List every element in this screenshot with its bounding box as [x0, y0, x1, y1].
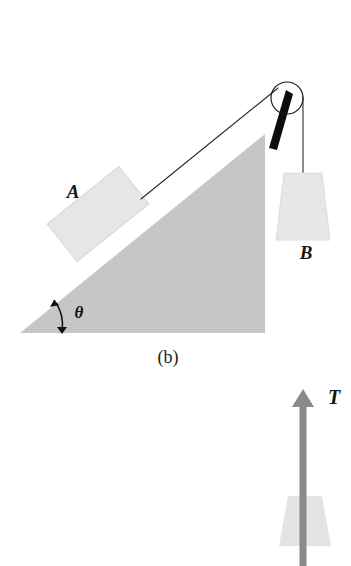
- block-b-label: B: [299, 242, 313, 263]
- tension-label: T: [328, 386, 341, 408]
- theta-symbol: θ: [75, 303, 84, 322]
- diagram-canvas: A B θ (b): [0, 0, 351, 566]
- block-a-label: A: [66, 181, 80, 202]
- block-b-body: [276, 173, 330, 240]
- pulley-wheel: [271, 82, 303, 114]
- physics-figure: A B θ (b): [0, 0, 351, 566]
- figure-caption: (b): [158, 347, 179, 368]
